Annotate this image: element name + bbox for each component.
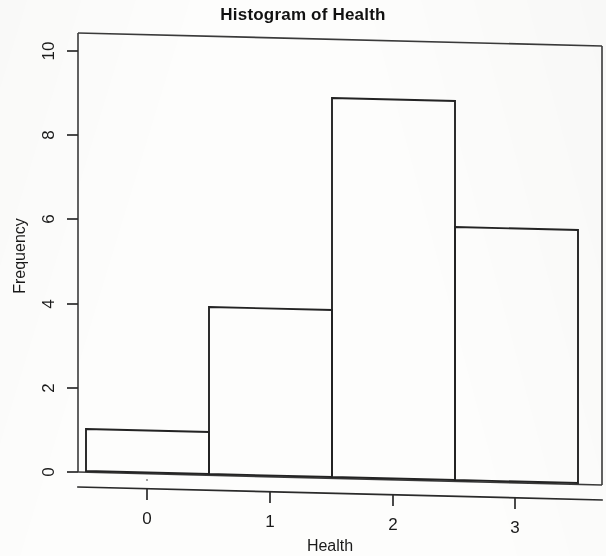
y-tick-label-4: 4 [39, 299, 58, 308]
y-tick-label-6: 6 [39, 214, 58, 223]
scan-speck-artifact [146, 479, 148, 481]
y-axis-title: Frequency [11, 218, 28, 294]
y-tick-label-0: 0 [39, 467, 58, 476]
chart-title: Histogram of Health [220, 5, 385, 24]
histogram-bar-0 [86, 429, 209, 474]
histogram-bar-3 [455, 227, 578, 483]
y-tick-label-8: 8 [39, 130, 58, 139]
histogram-bar-1 [209, 307, 332, 477]
x-tick-label-1: 1 [265, 512, 274, 531]
x-tick-label-3: 3 [510, 518, 519, 537]
x-tick-label-0: 0 [142, 509, 151, 528]
x-tick-label-2: 2 [388, 515, 397, 534]
histogram-bar-2 [332, 98, 455, 480]
y-tick-label-2: 2 [39, 383, 58, 392]
histogram-plot-canvas: Histogram of Health 10 8 6 4 2 0 Fre [0, 0, 606, 556]
histogram-figure: Histogram of Health 10 8 6 4 2 0 Fre [0, 0, 606, 556]
x-axis-title: Health [307, 537, 353, 554]
y-tick-label-10: 10 [39, 42, 58, 61]
